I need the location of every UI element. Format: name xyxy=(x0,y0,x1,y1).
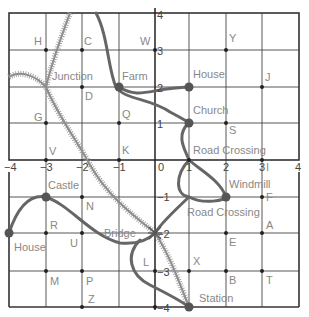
svg-text:−1: −1 xyxy=(157,191,170,203)
windmill-marker xyxy=(222,193,231,202)
svg-text:Y: Y xyxy=(229,32,237,44)
svg-text:D: D xyxy=(85,90,93,102)
svg-text:W: W xyxy=(140,35,151,47)
svg-text:1: 1 xyxy=(186,161,192,173)
svg-text:N: N xyxy=(86,200,94,212)
label-house-ne: House xyxy=(193,68,225,80)
label-church: Church xyxy=(193,104,228,116)
castle-marker xyxy=(42,193,51,202)
svg-text:Z: Z xyxy=(88,293,95,305)
label-castle: Castle xyxy=(48,179,79,191)
label-bridge: Bridge xyxy=(104,227,136,239)
svg-text:I: I xyxy=(266,161,269,173)
label-farm: Farm xyxy=(122,70,148,82)
svg-text:3: 3 xyxy=(157,45,163,57)
svg-text:0: 0 xyxy=(158,161,164,173)
svg-text:V: V xyxy=(49,145,57,157)
svg-text:X: X xyxy=(193,255,201,267)
svg-text:F: F xyxy=(266,191,273,203)
label-road-crossing-top: Road Crossing xyxy=(193,144,266,156)
house-w-marker xyxy=(5,229,14,238)
svg-text:P: P xyxy=(86,275,93,287)
svg-text:T: T xyxy=(266,274,273,286)
top-frame xyxy=(9,13,299,160)
label-windmill: Windmill xyxy=(229,178,271,190)
svg-text:A: A xyxy=(266,219,274,231)
svg-text:−2: −2 xyxy=(76,161,89,173)
svg-text:L: L xyxy=(143,256,149,268)
label-house-w: House xyxy=(14,241,46,253)
svg-text:−4: −4 xyxy=(4,161,17,173)
landmark-labels: Junction Farm House Church Road Crossing… xyxy=(14,68,271,304)
label-station: Station xyxy=(199,292,233,304)
label-road-crossing-bottom: Road Crossing xyxy=(187,206,260,218)
svg-text:−3: −3 xyxy=(157,266,170,278)
svg-text:E: E xyxy=(229,236,236,248)
svg-text:S: S xyxy=(229,124,236,136)
svg-text:2: 2 xyxy=(223,161,229,173)
svg-text:4: 4 xyxy=(157,9,163,21)
house-ne-marker xyxy=(185,83,194,92)
church-marker xyxy=(185,119,194,128)
svg-text:3: 3 xyxy=(259,161,265,173)
label-junction: Junction xyxy=(52,70,93,82)
svg-text:−3: −3 xyxy=(40,161,53,173)
svg-text:−1: −1 xyxy=(113,161,126,173)
coordinate-map: −4 −3 −2 −1 0 1 2 3 4 4 3 2 1 −1 −2 −3 −… xyxy=(0,0,309,317)
svg-text:4: 4 xyxy=(295,161,301,173)
x-tick-labels: −4 −3 −2 −1 0 1 2 3 4 xyxy=(4,161,301,173)
svg-text:M: M xyxy=(50,275,59,287)
svg-text:G: G xyxy=(34,111,43,123)
svg-text:J: J xyxy=(265,71,271,83)
svg-text:K: K xyxy=(122,144,130,156)
svg-text:U: U xyxy=(70,237,78,249)
svg-text:2: 2 xyxy=(157,82,163,94)
svg-text:−4: −4 xyxy=(157,302,170,314)
svg-text:1: 1 xyxy=(157,118,163,130)
svg-text:H: H xyxy=(34,35,42,47)
svg-text:R: R xyxy=(50,219,58,231)
svg-text:B: B xyxy=(229,274,236,286)
station-marker xyxy=(185,303,194,312)
svg-text:C: C xyxy=(84,35,92,47)
bridge-marker xyxy=(148,226,162,240)
farm-marker xyxy=(115,83,124,92)
svg-text:Q: Q xyxy=(122,108,131,120)
